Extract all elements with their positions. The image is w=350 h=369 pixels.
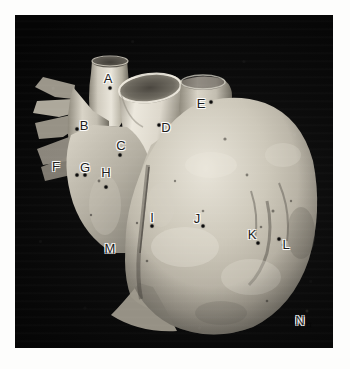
label-f[interactable]: F — [52, 160, 60, 173]
label-a[interactable]: A — [104, 72, 113, 85]
figure-root: ABCDEFGHIJKLMN — [0, 0, 350, 369]
label-h[interactable]: H — [101, 166, 110, 179]
label-k[interactable]: K — [248, 228, 257, 241]
marker-dot-i[interactable] — [151, 225, 154, 228]
photograph-plate: ABCDEFGHIJKLMN — [15, 15, 333, 348]
marker-dot-h[interactable] — [105, 186, 108, 189]
marker-dot-a[interactable] — [109, 87, 112, 90]
label-d[interactable]: D — [161, 121, 170, 134]
marker-dot-l[interactable] — [278, 238, 281, 241]
label-i[interactable]: I — [150, 211, 154, 224]
marker-dot-f[interactable] — [76, 174, 79, 177]
marker-dot-c[interactable] — [119, 154, 122, 157]
label-b[interactable]: B — [80, 119, 89, 132]
label-e[interactable]: E — [197, 97, 206, 110]
marker-dot-k[interactable] — [257, 242, 260, 245]
marker-dot-b[interactable] — [76, 128, 79, 131]
label-c[interactable]: C — [116, 139, 125, 152]
marker-dot-e[interactable] — [210, 101, 213, 104]
marker-dot-n[interactable] — [308, 324, 311, 327]
label-n[interactable]: N — [295, 314, 304, 327]
label-l[interactable]: L — [282, 238, 289, 251]
label-j[interactable]: J — [194, 212, 201, 225]
label-m[interactable]: M — [105, 242, 116, 255]
marker-dot-d[interactable] — [158, 124, 161, 127]
marker-dot-j[interactable] — [202, 225, 205, 228]
label-g[interactable]: G — [80, 161, 90, 174]
heart-specimen-illustration — [15, 15, 333, 348]
